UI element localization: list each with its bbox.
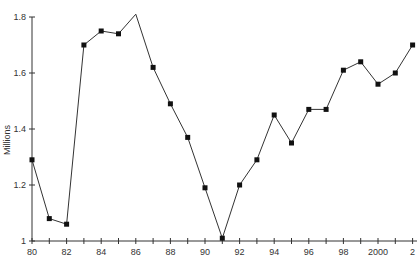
x-tick-label: 2000 [368,247,388,256]
data-point-marker [220,236,225,241]
y-tick-label: 1 [21,236,26,246]
data-point-marker [203,185,208,190]
data-point-marker [306,107,311,112]
data-point-marker [324,107,329,112]
data-point-marker [81,43,86,48]
data-point-marker [47,216,52,221]
x-tick-label: 2 [410,247,415,256]
x-tick-label: 98 [338,247,348,256]
x-tick-label: 86 [131,247,141,256]
x-tick-label: 96 [304,247,314,256]
x-tick-label: 92 [235,247,245,256]
x-tick-label: 84 [96,247,106,256]
x-tick-label: 80 [27,247,37,256]
data-point-marker [116,31,121,36]
y-tick-label: 1.6 [13,68,26,78]
x-tick-label: 94 [269,247,279,256]
data-point-marker [341,68,346,73]
data-point-marker [254,157,259,162]
data-point-marker [168,101,173,106]
x-tick-label: 88 [165,247,175,256]
data-point-marker [99,29,104,34]
data-point-marker [393,71,398,76]
data-point-marker [376,82,381,87]
data-point-marker [185,135,190,140]
y-tick-label: 1.2 [13,180,26,190]
data-point-marker [151,65,156,70]
x-tick-label: 90 [200,247,210,256]
data-point-marker [64,222,69,227]
y-tick-label: 1.4 [13,124,26,134]
x-tick-label: 82 [62,247,72,256]
data-point-marker [237,183,242,188]
data-markers [30,29,416,241]
data-point-marker [30,157,35,162]
series-line [32,14,413,238]
data-point-marker [272,113,277,118]
line-chart: 11.21.41.61.8 8082848688909294969820002 … [0,0,417,256]
y-axis-title: Millions [2,125,12,156]
y-axis: 11.21.41.61.8 [13,12,35,246]
data-point-marker [289,141,294,146]
data-point-marker [410,43,415,48]
data-point-marker [358,59,363,64]
y-tick-label: 1.8 [13,12,26,22]
